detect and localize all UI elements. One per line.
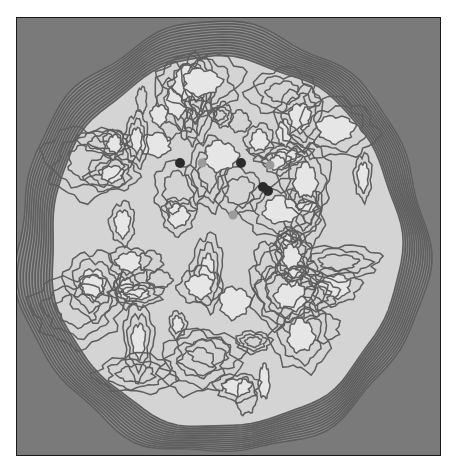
marker-dot (236, 158, 246, 168)
marker-dot (229, 211, 238, 220)
marker-dot (198, 159, 207, 168)
marker-dot (175, 158, 185, 168)
marker-dot (263, 186, 273, 196)
marker-dot (266, 161, 275, 170)
contour-plot (17, 18, 441, 456)
contour-plot-frame (16, 17, 441, 456)
